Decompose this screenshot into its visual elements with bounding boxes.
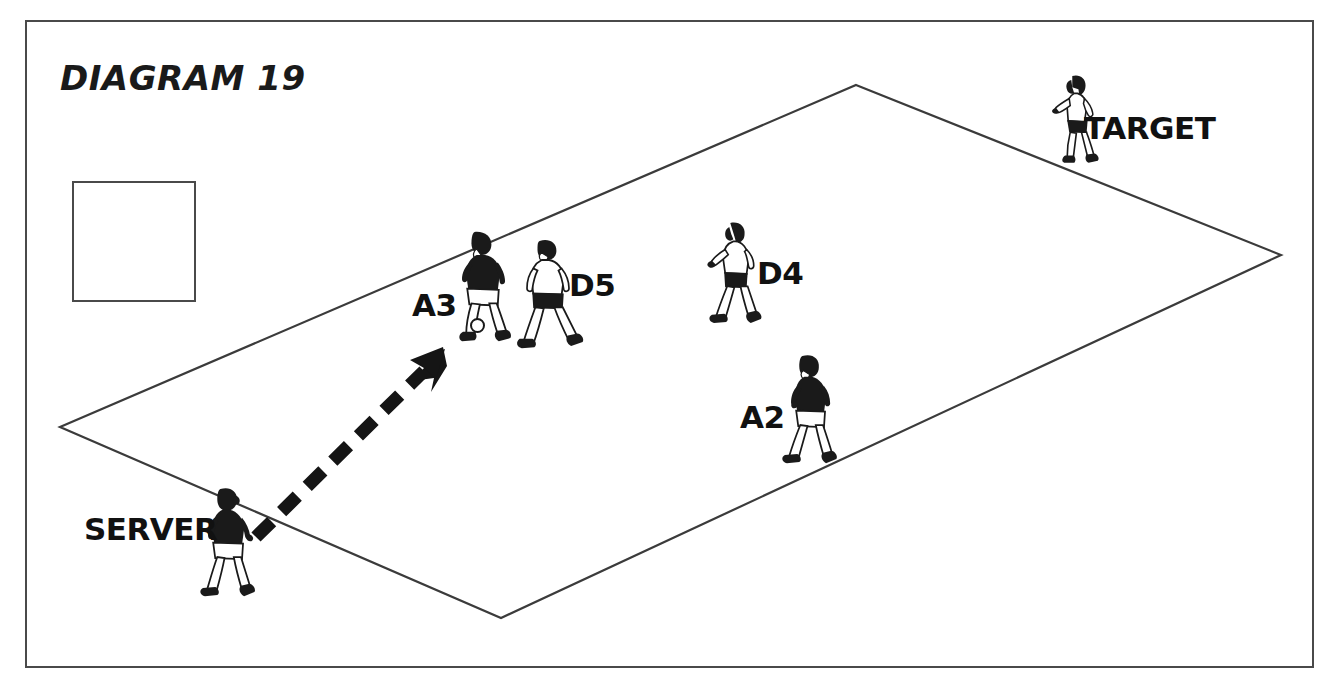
serve-pass-arrow <box>256 347 447 537</box>
label-d5: D5 <box>569 267 615 303</box>
court-graphics <box>0 0 1338 690</box>
court-outline <box>60 85 1281 618</box>
label-target: TARGET <box>1084 110 1215 146</box>
diagram-canvas: DIAGRAM 19 TARGET A3 D5 D4 A2 SERVER <box>0 0 1338 690</box>
player-figure-a2 <box>782 355 837 463</box>
page-title: DIAGRAM 19 <box>60 58 306 98</box>
player-figure-d4 <box>707 223 761 323</box>
label-server: SERVER <box>84 511 217 547</box>
label-a3: A3 <box>412 287 457 323</box>
ball <box>470 318 485 333</box>
player-figure-a3 <box>459 232 511 341</box>
check-mark-box <box>72 181 196 302</box>
label-a2: A2 <box>740 399 785 435</box>
label-d4: D4 <box>757 255 803 291</box>
